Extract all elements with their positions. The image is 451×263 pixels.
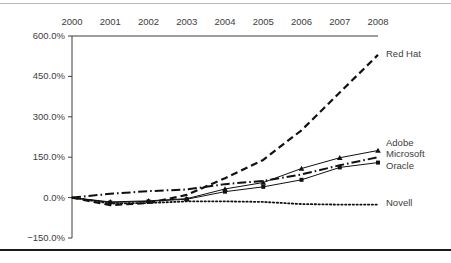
series-label-red-hat: Red Hat bbox=[386, 49, 421, 59]
y-axis-tick-label: 0.0% bbox=[43, 193, 65, 203]
chart-axes bbox=[68, 36, 378, 238]
series-line-red-hat bbox=[72, 55, 378, 205]
series-line-oracle bbox=[72, 163, 378, 203]
x-axis-tick-label: 2000 bbox=[52, 17, 92, 27]
y-axis-tick-label: 150.0% bbox=[33, 152, 65, 162]
y-axis-tick-label: 450.0% bbox=[33, 71, 65, 81]
series-label-novell: Novell bbox=[386, 198, 412, 208]
series-marker-oracle bbox=[338, 165, 342, 169]
x-axis-tick-label: 2007 bbox=[320, 17, 360, 27]
y-axis-tick-label: 600.0% bbox=[33, 31, 65, 41]
series-marker-adobe bbox=[375, 148, 381, 153]
series-label-oracle: Oracle bbox=[386, 161, 414, 171]
series-marker-oracle bbox=[261, 185, 265, 189]
y-axis-tick-label: 300.0% bbox=[33, 112, 65, 122]
x-axis-tick-label: 2002 bbox=[129, 17, 169, 27]
series-label-microsoft: Microsoft bbox=[386, 149, 425, 159]
series-label-adobe: Adobe bbox=[386, 138, 413, 148]
y-axis-tick-label: −150.0% bbox=[27, 233, 65, 243]
series-marker-oracle bbox=[376, 161, 380, 165]
x-axis-tick-label: 2004 bbox=[205, 17, 245, 27]
line-chart bbox=[0, 0, 451, 263]
x-axis-tick-label: 2001 bbox=[90, 17, 130, 27]
x-axis-tick-label: 2003 bbox=[167, 17, 207, 27]
chart-series bbox=[72, 55, 381, 205]
x-axis-tick-label: 2008 bbox=[358, 17, 398, 27]
series-line-novell bbox=[72, 198, 378, 205]
series-marker-oracle bbox=[300, 178, 304, 182]
x-axis-tick-label: 2006 bbox=[282, 17, 322, 27]
series-marker-oracle bbox=[223, 190, 227, 194]
x-axis-tick-label: 2005 bbox=[243, 17, 283, 27]
